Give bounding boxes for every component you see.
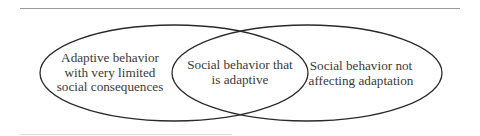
intersection-region-line-2: is adaptive	[180, 73, 300, 88]
left-region-line-2: with very limited	[50, 66, 170, 81]
bottom-rule	[20, 134, 232, 135]
right-region-line-2: affecting adaptation	[300, 74, 422, 89]
left-region-label: Adaptive behavior with very limited soci…	[50, 51, 170, 95]
right-region-line-1: Social behavior not	[300, 59, 422, 74]
left-region-line-3: social consequences	[50, 80, 170, 95]
left-region-line-1: Adaptive behavior	[50, 51, 170, 66]
right-region-label: Social behavior not affecting adaptation	[300, 59, 422, 88]
intersection-region-label: Social behavior that is adaptive	[180, 58, 300, 87]
intersection-region-line-1: Social behavior that	[180, 58, 300, 73]
